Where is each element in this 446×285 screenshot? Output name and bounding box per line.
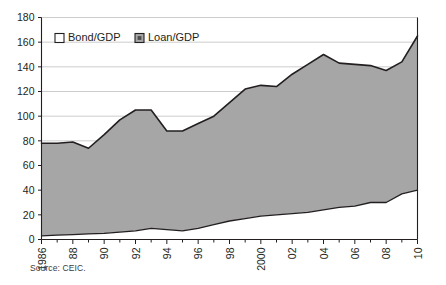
y-axis-tick-labels: 020406080100120140160180 [17,11,35,245]
stacked-area-chart: 020406080100120140160180 198688909294969… [0,0,446,285]
legend-swatch-center [58,36,62,40]
x-tick-label: 96 [192,247,204,259]
y-tick-label: 120 [17,85,35,97]
legend-swatch-center [138,36,142,40]
legend-label: Bond/GDP [68,31,121,43]
legend-label: Loan/GDP [148,31,199,43]
y-tick-label: 60 [23,159,35,171]
x-tick-label: 94 [161,247,173,259]
y-tick-label: 80 [23,135,35,147]
y-tick-label: 40 [23,184,35,196]
x-tick-label: 04 [318,247,330,259]
x-axis-tick-labels: 198688909294969820000204060810 [36,247,424,271]
y-tick-label: 0 [29,233,35,245]
x-tick-label: 10 [412,247,424,259]
y-tick-label: 20 [23,209,35,221]
figure-container: 020406080100120140160180 198688909294969… [0,0,446,285]
y-tick-label: 180 [17,11,35,23]
x-tick-label: 2000 [255,247,267,271]
x-tick-label: 98 [224,247,236,259]
y-tick-label: 100 [17,110,35,122]
x-tick-label: 92 [130,247,142,259]
x-tick-label: 06 [349,247,361,259]
x-tick-label: 08 [380,247,392,259]
x-tick-label: 02 [286,247,298,259]
x-tick-label: 88 [67,247,79,259]
source-note: Source: CEIC. [30,263,86,273]
y-tick-label: 140 [17,61,35,73]
legend-item: Bond/GDP [55,31,121,43]
y-tick-label: 160 [17,36,35,48]
legend-item: Loan/GDP [135,31,199,43]
x-axis-ticks [42,240,418,245]
chart-legend: Bond/GDPLoan/GDP [55,31,199,43]
x-tick-label: 90 [98,247,110,259]
